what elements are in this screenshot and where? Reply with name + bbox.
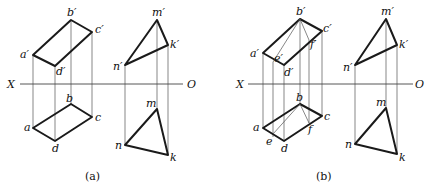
triangle-top-a — [125, 109, 168, 155]
projection-lines-b — [263, 19, 397, 154]
label-m-prime: m′ — [152, 6, 165, 19]
label-a-prime-b: a′ — [250, 47, 260, 60]
label-k: k — [170, 151, 177, 164]
parallelogram-top-a — [33, 104, 92, 141]
label-d-prime: d′ — [56, 65, 66, 78]
parallelogram-front-a — [33, 20, 92, 66]
projection-lines-a — [33, 20, 168, 155]
label-a-b: a — [253, 121, 260, 134]
label-b: b — [66, 92, 73, 105]
label-c-prime-b: c′ — [323, 22, 332, 35]
label-d-prime-b: d′ — [284, 66, 294, 79]
caption-b: (b) — [316, 170, 332, 183]
label-b-b: b — [296, 91, 303, 104]
triangle-front-b — [355, 19, 397, 65]
label-d-b: d — [281, 142, 288, 155]
label-m-b: m — [376, 96, 386, 109]
axis-x-label-b: X — [235, 78, 245, 91]
label-a: a — [24, 121, 31, 134]
label-n: n — [115, 139, 122, 152]
triangle-top-b — [355, 108, 397, 154]
label-c: c — [95, 111, 101, 124]
label-f-prime-b: f′ — [309, 38, 317, 51]
panel-b: X O a′ b′ c′ d′ e′ f′ m′ n′ k′ a b c d e… — [235, 5, 424, 183]
panel-a: X O a′ b′ c′ d′ m′ n′ k′ a b c d m n k (… — [6, 6, 196, 183]
label-m: m — [146, 97, 156, 110]
label-c-prime: c′ — [95, 23, 104, 36]
label-b-prime: b′ — [67, 6, 77, 19]
label-m-prime-b: m′ — [381, 5, 394, 18]
caption-a: (a) — [85, 170, 100, 183]
label-n-prime-b: n′ — [343, 61, 353, 74]
label-b-prime-b: b′ — [296, 5, 306, 18]
label-e-b: e — [266, 135, 273, 148]
label-k-prime: k′ — [170, 38, 180, 51]
label-c-b: c — [324, 110, 330, 123]
label-f-b: f — [307, 123, 314, 136]
label-k-prime-b: k′ — [399, 38, 409, 51]
label-d: d — [52, 142, 59, 155]
label-n-prime: n′ — [113, 60, 123, 73]
label-k-b: k — [399, 151, 406, 164]
axis-o-label-a: O — [187, 78, 196, 91]
axis-x-label-a: X — [6, 78, 16, 91]
axis-o-label-b: O — [415, 78, 424, 91]
triangle-front-a — [125, 20, 168, 65]
label-e-prime-b: e′ — [274, 52, 284, 65]
label-a-prime: a′ — [20, 48, 30, 61]
label-n-b: n — [345, 138, 352, 151]
projection-diagram: X O a′ b′ c′ d′ m′ n′ k′ a b c d m n k (… — [0, 0, 425, 189]
